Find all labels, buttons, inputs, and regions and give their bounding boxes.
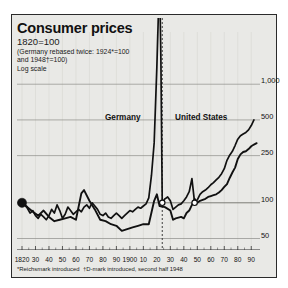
x-axis-tick-50: 50: [194, 256, 201, 263]
footnote-block: *Reichsmark introduced †D-mark introduce…: [17, 266, 267, 276]
x-axis-tick-90: 90: [248, 256, 255, 263]
footnote-dmark: †D-mark introduced, second half 1948: [83, 266, 183, 272]
x-axis-tick-30: 30: [167, 256, 174, 263]
series-label-united-states: United States: [175, 113, 227, 122]
x-axis-tick-70: 70: [86, 256, 93, 263]
series-label-germany: Germany: [105, 113, 141, 122]
x-axis-tick-10: 10: [140, 256, 147, 263]
title-block: Consumer prices 1820=100 (Germany rebase…: [17, 20, 167, 73]
y-axis-tick-500: 500: [261, 112, 273, 121]
x-axis-tick-40: 40: [180, 256, 187, 263]
x-axis-tick-50: 50: [59, 256, 66, 263]
y-axis-tick-250: 250: [261, 148, 273, 157]
y-axis-tick-100: 100: [261, 195, 273, 204]
x-axis-tick-1900: 1900: [123, 256, 138, 263]
subtitle-note-line2: and 1948†=100): [17, 56, 167, 64]
x-axis-tick-60: 60: [207, 256, 214, 263]
chart-figure: Consumer prices 1820=100 (Germany rebase…: [0, 0, 288, 288]
x-axis-tick-60: 60: [72, 256, 79, 263]
page-title: Consumer prices: [17, 20, 167, 36]
x-axis-tick-1820: 1820: [15, 256, 30, 263]
subtitle-note-line1: (Germany rebased twice: 1924*=100: [17, 48, 167, 56]
subtitle-base: 1820=100: [17, 37, 167, 48]
x-axis-tick-70: 70: [221, 256, 228, 263]
x-axis-tick-80: 80: [99, 256, 106, 263]
y-axis-tick-50: 50: [261, 231, 269, 240]
footnote-reichsmark: *Reichsmark introduced: [17, 266, 80, 272]
x-axis-labels: 1820304050607080901900102030405060708090: [0, 256, 288, 266]
x-axis-tick-80: 80: [234, 256, 241, 263]
x-axis-tick-20: 20: [153, 256, 160, 263]
x-axis-tick-90: 90: [113, 256, 120, 263]
x-axis-tick-40: 40: [45, 256, 52, 263]
y-axis-tick-1000: 1,000: [261, 76, 280, 85]
x-axis-tick-30: 30: [32, 256, 39, 263]
subtitle-scale: Log scale: [17, 65, 167, 74]
